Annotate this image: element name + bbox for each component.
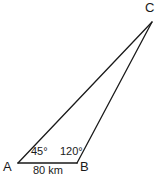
vertex-label-b: B bbox=[80, 160, 89, 173]
side-length-label-ab: 80 km bbox=[33, 165, 63, 176]
vertex-label-c: C bbox=[145, 1, 154, 14]
angle-label-at-a: 45° bbox=[31, 146, 48, 157]
segment-ac bbox=[18, 22, 152, 163]
angle-label-at-b: 120° bbox=[60, 146, 83, 157]
segment-bc bbox=[77, 22, 152, 163]
triangle-figure: A B C 45° 120° 80 km bbox=[0, 0, 162, 179]
vertex-label-a: A bbox=[3, 160, 12, 173]
